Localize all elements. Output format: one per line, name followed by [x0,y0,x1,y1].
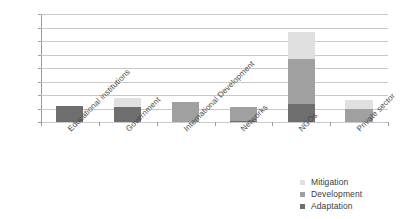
y-tick-mark [38,68,41,69]
x-tick-mark [388,122,389,126]
bar-group[interactable] [56,14,83,122]
x-tick-mark [99,122,100,126]
gridline [41,82,388,83]
legend-swatch-icon [300,204,305,209]
legend-label: Adaptation [311,202,353,211]
bar-segment-mitigation[interactable] [114,98,141,107]
y-tick-mark [38,55,41,56]
bar-segment-mitigation[interactable] [345,100,372,108]
y-tick-mark [38,41,41,42]
legend-item[interactable]: Mitigation [300,176,398,188]
x-tick-mark [215,122,216,126]
gridline [41,55,388,56]
gridline [41,28,388,29]
legend-item[interactable]: Development [300,188,398,200]
gridline [41,41,388,42]
y-tick-mark [38,82,41,83]
x-tick-mark [272,122,273,126]
x-tick-mark [330,122,331,126]
legend-label: Mitigation [311,178,348,187]
stacked-bar-chart: 0510152025303540 Educational institution… [0,0,401,219]
legend-swatch-icon [300,192,305,197]
gridline [41,14,388,15]
y-tick-mark [38,109,41,110]
bar-segment-development[interactable] [288,59,315,105]
bar-segment-mitigation[interactable] [288,32,315,59]
bar-group[interactable] [114,14,141,122]
legend-label: Development [311,190,362,199]
legend-item[interactable]: Adaptation [300,200,398,212]
bar-group[interactable] [172,14,199,122]
chart-legend: MitigationDevelopmentAdaptation [300,176,398,212]
legend-swatch-icon [300,180,305,185]
y-tick-mark [38,95,41,96]
bar-group[interactable] [345,14,372,122]
x-tick-mark [41,122,42,126]
bar-group[interactable] [288,14,315,122]
y-tick-mark [38,28,41,29]
gridline [41,68,388,69]
x-tick-mark [157,122,158,126]
y-tick-mark [38,14,41,15]
